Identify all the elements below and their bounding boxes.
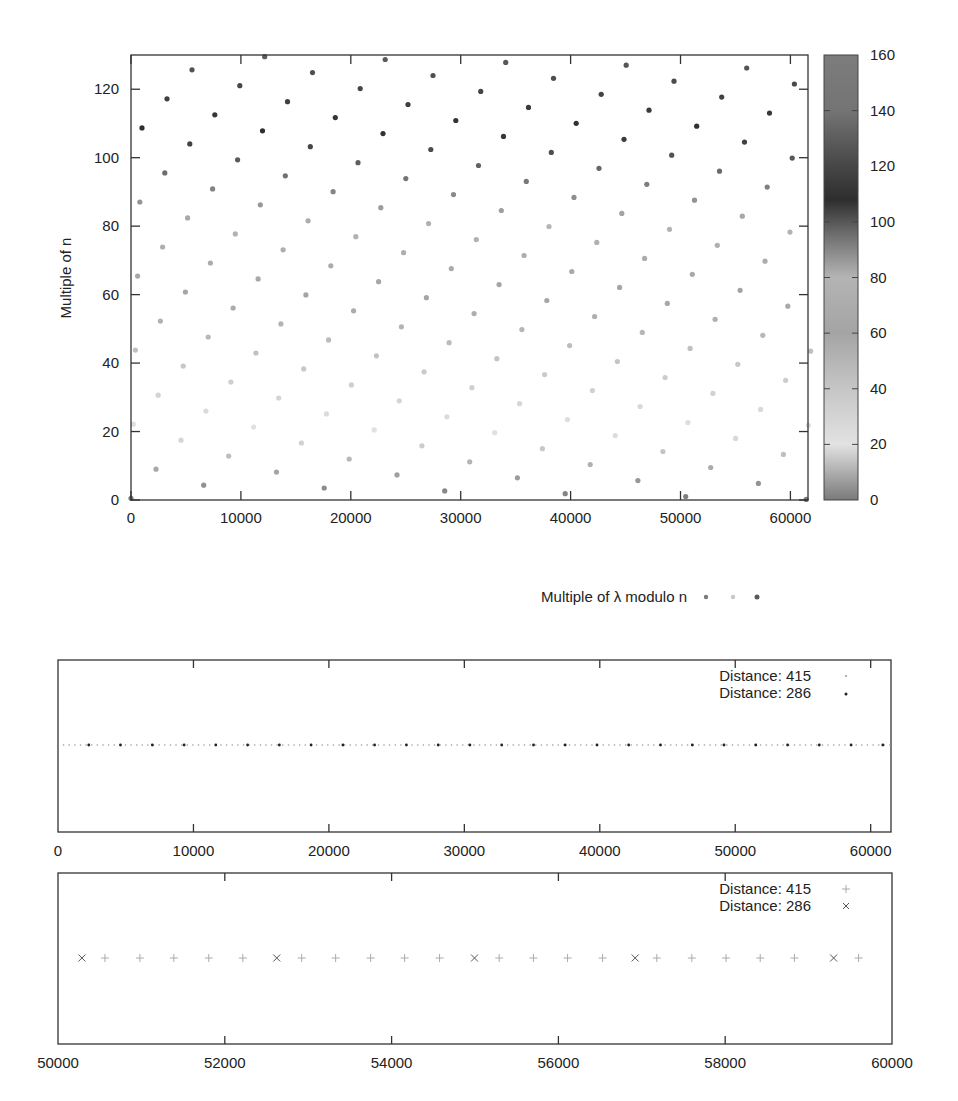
point-415 [541, 744, 543, 746]
point-415 [147, 744, 149, 746]
point-415 [462, 744, 464, 746]
data-point [135, 274, 140, 279]
data-point [178, 438, 183, 443]
data-point [162, 170, 167, 175]
point-415 [574, 744, 576, 746]
point-415 [771, 744, 773, 746]
distance-markers [78, 954, 862, 962]
point-415 [704, 744, 706, 746]
data-point [567, 343, 572, 348]
point-415 [423, 744, 425, 746]
point-415 [777, 744, 779, 746]
point-415 [586, 744, 588, 746]
data-point [713, 317, 718, 322]
point-415 [721, 744, 723, 746]
point-415 [102, 744, 104, 746]
data-point [758, 407, 763, 412]
data-point [710, 391, 715, 396]
point-415 [546, 744, 548, 746]
point-415 [232, 744, 234, 746]
point-415 [451, 744, 453, 746]
data-point [308, 144, 313, 149]
point-415 [243, 744, 245, 746]
data-point [781, 452, 786, 457]
point-415 [91, 744, 93, 746]
data-point [635, 478, 640, 483]
y-axis: 020406080100120 [94, 80, 808, 508]
x-tick-label: 60000 [871, 1054, 913, 1071]
data-point [685, 420, 690, 425]
data-point [783, 378, 788, 383]
point-415 [889, 744, 891, 746]
legend-entry-415: Distance: 415 [719, 667, 811, 684]
data-point [422, 369, 427, 374]
data-point [683, 494, 688, 499]
point-415 [805, 744, 807, 746]
data-point [405, 102, 410, 107]
legend-marker-dark [704, 595, 708, 599]
point-415 [855, 744, 857, 746]
data-point [322, 485, 327, 490]
point-415 [80, 744, 82, 746]
data-point [615, 359, 620, 364]
data-point [374, 353, 379, 358]
point-415 [209, 744, 211, 746]
y-tick-label: 100 [94, 149, 119, 166]
point-415 [822, 744, 824, 746]
data-point [251, 425, 256, 430]
point-415 [63, 744, 65, 746]
data-point [258, 202, 263, 207]
data-point [546, 224, 551, 229]
data-point [499, 208, 504, 213]
data-point [156, 393, 161, 398]
x-tick-label: 50000 [37, 1054, 79, 1071]
point-415 [799, 744, 801, 746]
plus-marker [599, 954, 607, 962]
data-point [551, 76, 556, 81]
point-415 [861, 744, 863, 746]
point-415 [439, 744, 441, 746]
data-point [233, 231, 238, 236]
point-415 [333, 744, 335, 746]
x-tick-label: 0 [54, 842, 62, 859]
point-415 [732, 744, 734, 746]
point-286 [183, 744, 186, 747]
data-point [299, 440, 304, 445]
plus-marker [495, 954, 503, 962]
data-point [303, 292, 308, 297]
point-415 [608, 744, 610, 746]
data-point [740, 214, 745, 219]
data-point [787, 230, 792, 235]
point-415 [125, 744, 127, 746]
data-point [306, 218, 311, 223]
data-point [590, 388, 595, 393]
data-point [331, 189, 336, 194]
plus-marker [101, 954, 109, 962]
plus-marker [436, 954, 444, 962]
point-415 [558, 744, 560, 746]
figure: 0100002000030000400005000060000 02040608… [0, 0, 958, 1101]
data-point [401, 250, 406, 255]
point-415 [715, 744, 717, 746]
data-point [164, 96, 169, 101]
x-tick-label: 52000 [204, 1054, 246, 1071]
point-415 [782, 744, 784, 746]
point-415 [271, 744, 273, 746]
point-415 [867, 744, 869, 746]
point-415 [737, 744, 739, 746]
data-point [526, 105, 531, 110]
legend: Distance: 415 Distance: 286 [719, 880, 850, 914]
data-point [542, 372, 547, 377]
point-415 [535, 744, 537, 746]
legend-entry-286: Distance: 286 [719, 897, 811, 914]
data-point [599, 92, 604, 97]
data-point [467, 459, 472, 464]
data-point [285, 99, 290, 104]
point-415 [676, 744, 678, 746]
point-415 [726, 744, 728, 746]
data-point [694, 124, 699, 129]
point-286 [500, 744, 503, 747]
point-415 [260, 744, 262, 746]
data-point [203, 409, 208, 414]
data-point [744, 65, 749, 70]
